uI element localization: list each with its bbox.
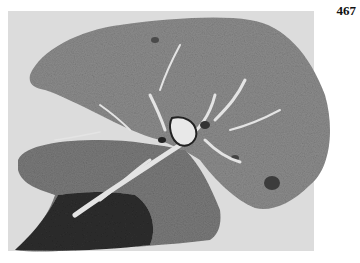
nodule [264, 176, 280, 190]
hilum-dark [200, 121, 210, 129]
page-number: 467 [337, 3, 357, 19]
hilum-dark [158, 137, 166, 143]
dark-consolidation [15, 192, 153, 251]
lung-section-image [0, 0, 360, 263]
nodule [151, 37, 159, 43]
